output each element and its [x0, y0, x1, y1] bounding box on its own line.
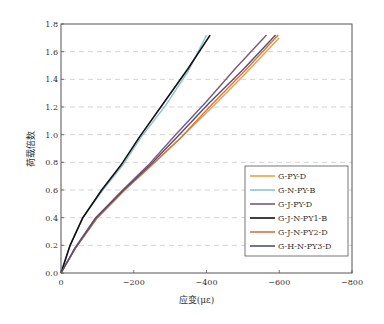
y-axis-label: 荷载倍数 [25, 131, 36, 167]
series-line-g-h-n-py3-d [61, 35, 276, 273]
x-axis-label: 应变(με) [179, 294, 215, 305]
y-tick-label: 0.2 [45, 241, 58, 250]
x-tick-label: 0 [58, 278, 63, 287]
x-tick-label: −800 [341, 278, 363, 287]
y-tick-label: 1.0 [45, 131, 58, 140]
legend-label: G-PY-D [278, 172, 306, 181]
x-tick-label: −600 [268, 278, 290, 287]
legend: G-PY-DG-N-PY-BG-J-PY-DG-J-N-PY1-BG-J-N-P… [245, 166, 348, 256]
legend-label: G-H-N-PY3-D [278, 242, 332, 251]
x-tick-label: −400 [196, 278, 218, 287]
legend-label: G-J-N-PY1-B [278, 214, 327, 223]
y-tick-label: 0.8 [45, 158, 58, 167]
legend-label: G-J-PY-D [278, 200, 312, 209]
y-tick-label: 1.6 [45, 48, 58, 57]
y-tick-label: 1.2 [45, 103, 58, 112]
y-tick-label: 1.4 [45, 75, 58, 84]
y-tick-label: 0.4 [45, 214, 58, 223]
y-tick-label: 0.6 [45, 186, 58, 195]
y-tick-label: 0.0 [45, 269, 58, 278]
x-tick-label: −200 [123, 278, 145, 287]
y-tick-label: 1.8 [45, 20, 58, 29]
legend-label: G-J-N-PY2-D [278, 228, 328, 237]
chart-svg: 0.00.20.40.60.81.01.21.41.61.80−200−400−… [0, 0, 384, 324]
legend-label: G-N-PY-B [278, 186, 315, 195]
